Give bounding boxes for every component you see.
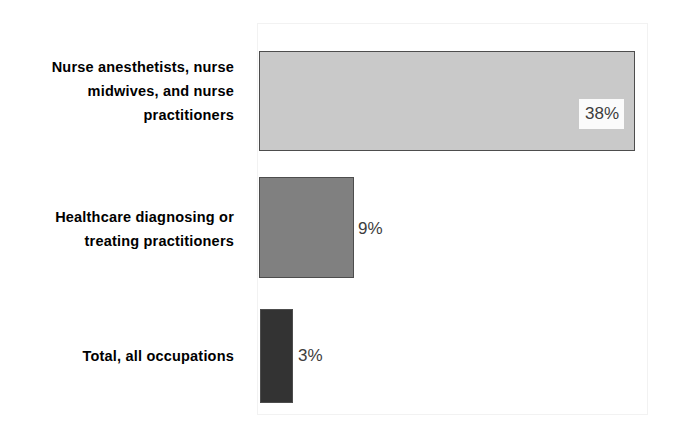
bar-healthcare-diagnosing: [259, 177, 354, 278]
value-label-healthcare-diagnosing: 9%: [358, 220, 383, 237]
category-label-nurse-anesthetists: Nurse anesthetists, nurse midwives, and …: [0, 55, 246, 127]
value-label-nurse-anesthetists: 38%: [579, 99, 624, 129]
category-label-total-all-occupations: Total, all occupations: [0, 344, 246, 368]
bar-total-all-occupations: [260, 309, 293, 403]
category-label-healthcare-diagnosing: Healthcare diagnosing or treating practi…: [0, 205, 246, 253]
plot-area: 38% 9% 3%: [257, 23, 648, 415]
bar-chart: Nurse anesthetists, nurse midwives, and …: [0, 0, 675, 438]
category-axis-labels: Nurse anesthetists, nurse midwives, and …: [0, 0, 246, 438]
value-label-total-all-occupations: 3%: [298, 347, 323, 364]
